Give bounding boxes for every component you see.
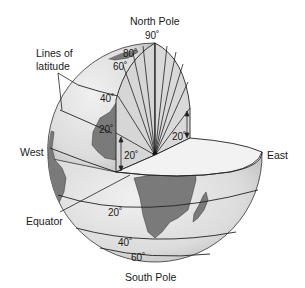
east-label: East [267,149,288,161]
angle-20-right-label: 20˚ [172,131,186,142]
angle-20-left-label: 20˚ [124,150,138,161]
degree-60-label: 60˚ [113,61,127,72]
south-pole-label: South Pole [125,271,177,283]
lines-of-latitude-label-2: latitude [36,60,70,72]
equator-label: Equator [26,215,63,227]
degree-90-label: 90˚ [145,30,159,41]
degree-60-south-label: 60˚ [131,252,145,263]
west-label: West [20,146,44,158]
degree-20-north-label: 20˚ [99,124,113,135]
lines-of-latitude-label-1: Lines of [36,47,73,59]
degree-40-north-label: 40˚ [100,93,114,104]
degree-40-south-label: 40˚ [118,237,132,248]
degree-80-label: 80˚ [123,48,137,59]
degree-20-south-label: 20˚ [108,207,122,218]
north-pole-label: North Pole [130,15,180,27]
globe-diagram: North Pole 90˚ 80˚ 60˚ 40˚ 20˚ 20˚ 20˚ L… [0,0,305,288]
